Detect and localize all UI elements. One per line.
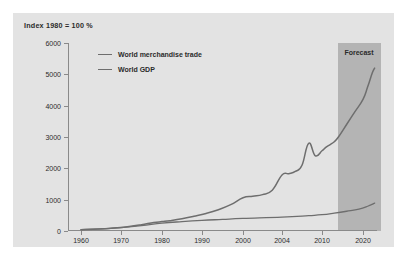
y-tick-label: 6000 xyxy=(45,40,61,47)
chart-legend: World merchandise trade World GDP xyxy=(98,49,202,79)
x-tick-mark xyxy=(121,231,122,235)
x-tick-label: 2010 xyxy=(314,237,330,244)
x-tick-label: 1970 xyxy=(113,237,129,244)
y-tick-label: 3000 xyxy=(45,134,61,141)
legend-swatch-gdp xyxy=(98,69,112,70)
y-tick-label: 2000 xyxy=(45,165,61,172)
x-tick-label: 1980 xyxy=(154,237,170,244)
x-tick-label: 2004 xyxy=(274,237,290,244)
line-world-merchandise-trade xyxy=(81,68,375,230)
chart-panel: Index 1980 = 100 % Forecast 010002000300… xyxy=(13,13,394,247)
x-tick-label: 1960 xyxy=(73,237,89,244)
legend-item-trade: World merchandise trade xyxy=(98,49,202,60)
x-tick-label: 2000 xyxy=(235,237,251,244)
x-tick-mark xyxy=(363,231,364,235)
legend-label-trade: World merchandise trade xyxy=(118,51,202,58)
legend-item-gdp: World GDP xyxy=(98,64,202,75)
y-tick-label: 4000 xyxy=(45,102,61,109)
x-tick-mark xyxy=(322,231,323,235)
line-world-gdp xyxy=(81,203,375,229)
chart-figure: Index 1980 = 100 % Forecast 010002000300… xyxy=(0,0,407,261)
x-tick-label: 2020 xyxy=(355,237,371,244)
chart-title: Index 1980 = 100 % xyxy=(24,21,93,30)
y-tick-mark xyxy=(64,231,68,232)
x-tick-mark xyxy=(243,231,244,235)
x-tick-mark xyxy=(81,231,82,235)
y-tick-label: 5000 xyxy=(45,71,61,78)
legend-label-gdp: World GDP xyxy=(118,66,155,73)
x-tick-mark xyxy=(202,231,203,235)
x-tick-label: 1990 xyxy=(194,237,210,244)
x-tick-mark xyxy=(162,231,163,235)
y-tick-label: 1000 xyxy=(45,196,61,203)
x-tick-mark xyxy=(282,231,283,235)
legend-swatch-trade xyxy=(98,54,112,55)
y-tick-label: 0 xyxy=(57,228,61,235)
